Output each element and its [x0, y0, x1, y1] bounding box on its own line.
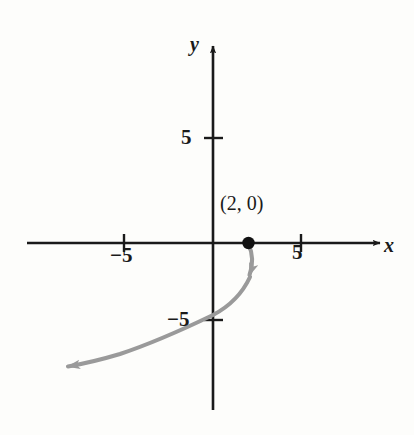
figure-container: y x −5 5 5 −5 (2, 0) — [0, 0, 414, 435]
point-annotation-label: (2, 0) — [220, 192, 263, 215]
curve-segment-tail — [68, 277, 250, 367]
x-tick-label-negative-5: −5 — [110, 243, 132, 268]
y-axis-label: y — [190, 33, 199, 56]
coordinate-plot — [0, 0, 414, 435]
x-axis-label: x — [384, 234, 394, 257]
x-tick-label-positive-5: 5 — [292, 240, 303, 265]
y-tick-label-positive-5: 5 — [181, 125, 192, 150]
y-tick-label-negative-5: −5 — [167, 307, 189, 332]
point-marker-2-0 — [242, 237, 254, 249]
